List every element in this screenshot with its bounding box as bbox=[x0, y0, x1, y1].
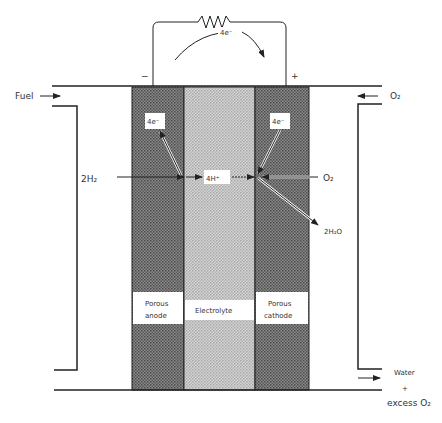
cathode-label-line1: Porous bbox=[268, 300, 292, 308]
fuel-label: Fuel bbox=[15, 91, 33, 101]
water-product-label: 2H₂O bbox=[324, 228, 343, 236]
electron-flow-label: 4e⁻ bbox=[220, 29, 233, 37]
oxygen-input-label: O₂ bbox=[390, 91, 401, 101]
anode-terminal: − bbox=[141, 71, 149, 81]
anode-label-line1: Porous bbox=[145, 300, 169, 308]
electrolyte-layer bbox=[184, 87, 255, 390]
anode-electrons-label: 4e⁻ bbox=[147, 118, 160, 126]
cathode-layer bbox=[255, 87, 309, 390]
hydrogen-label: 2H₂ bbox=[81, 174, 97, 184]
cathode-label-line2: cathode bbox=[264, 312, 292, 320]
cathode-electrons-label: 4e⁻ bbox=[272, 118, 285, 126]
oxygen-reactant-label: O₂ bbox=[323, 173, 334, 183]
anode-layer bbox=[132, 87, 184, 390]
proton-label: 4H⁺ bbox=[206, 175, 220, 183]
fuel-channel bbox=[52, 106, 77, 370]
external-circuit-wire bbox=[153, 16, 286, 86]
cathode-terminal: + bbox=[291, 71, 299, 81]
anode-label-line2: anode bbox=[145, 312, 167, 320]
oxidant-channel bbox=[358, 104, 382, 369]
water-output-label: Water bbox=[394, 369, 415, 377]
electrolyte-label: Electrolyte bbox=[195, 307, 232, 315]
excess-oxygen-label: excess O₂ bbox=[387, 398, 431, 408]
output-plus: + bbox=[402, 385, 408, 393]
fuel-cell-diagram: 4e⁻ − + Fuel O₂ 2H₂ 4H⁺ 4e⁻ 4e⁻ O₂ 2H₂O … bbox=[0, 0, 442, 423]
